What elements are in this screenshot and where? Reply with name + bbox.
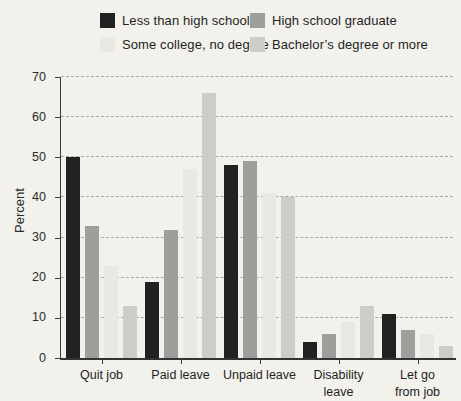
x-tick-label: Quit job <box>80 367 123 384</box>
bar-group-disability-leave: Disability leave <box>303 77 374 358</box>
bar <box>66 157 80 358</box>
bar <box>322 334 336 358</box>
y-tick-label: 10 <box>32 311 46 324</box>
y-tick-label: 50 <box>32 151 46 164</box>
x-tick-mark <box>181 360 182 364</box>
y-tick-label: 40 <box>32 191 46 204</box>
y-tick-mark <box>55 278 60 279</box>
x-tick-label: Disability leave <box>313 367 363 401</box>
bar <box>243 161 257 358</box>
bar <box>401 330 415 358</box>
bar <box>183 169 197 358</box>
bar <box>224 165 238 358</box>
legend-label: High school graduate <box>272 13 397 28</box>
y-tick-mark <box>55 318 60 319</box>
bar <box>420 334 434 358</box>
bar <box>262 193 276 358</box>
plot-area: Quit jobPaid leaveUnpaid leaveDisability… <box>60 77 456 360</box>
x-tick-label: Paid leave <box>151 367 209 384</box>
bar <box>382 314 396 358</box>
bar <box>145 282 159 358</box>
y-tick-mark <box>55 117 60 118</box>
legend-swatch-icon <box>250 37 265 52</box>
bar <box>202 93 216 358</box>
chart-legend: Less than high schoolHigh school graduat… <box>100 13 428 52</box>
bar <box>341 322 355 358</box>
bar <box>123 306 137 358</box>
bar <box>281 197 295 358</box>
bar <box>85 226 99 358</box>
legend-swatch-icon <box>250 13 265 28</box>
x-tick-mark <box>260 360 261 364</box>
x-tick-label: Unpaid leave <box>223 367 296 384</box>
legend-label: Less than high school <box>122 13 250 28</box>
y-axis-tick-labels: 010203040506070 <box>0 77 46 358</box>
x-tick-mark <box>339 360 340 364</box>
bar-group-unpaid-leave: Unpaid leave <box>224 77 295 358</box>
y-tick-label: 60 <box>32 111 46 124</box>
x-tick-label: Let go from job <box>395 367 440 401</box>
bar <box>303 342 317 358</box>
legend-item: Bachelor’s degree or more <box>250 37 428 52</box>
y-tick-label: 20 <box>32 271 46 284</box>
legend-swatch-icon <box>100 37 115 52</box>
y-tick-mark <box>55 77 60 78</box>
bar <box>164 230 178 358</box>
bar <box>360 306 374 358</box>
legend-item: High school graduate <box>250 13 428 28</box>
y-tick-label: 70 <box>32 71 46 84</box>
bar <box>104 266 118 358</box>
bar-group-let-go-from-job: Let go from job <box>382 77 453 358</box>
legend-label: Some college, no degree <box>122 37 269 52</box>
y-tick-label: 0 <box>39 352 46 365</box>
y-tick-mark <box>55 197 60 198</box>
x-tick-mark <box>418 360 419 364</box>
legend-label: Bachelor’s degree or more <box>272 37 428 52</box>
legend-item: Less than high school <box>100 13 250 28</box>
bar-chart: Less than high schoolHigh school graduat… <box>0 0 461 401</box>
bar-group-paid-leave: Paid leave <box>145 77 216 358</box>
bar-groups: Quit jobPaid leaveUnpaid leaveDisability… <box>61 77 456 358</box>
y-tick-mark <box>55 238 60 239</box>
y-tick-label: 30 <box>32 231 46 244</box>
y-tick-mark <box>55 157 60 158</box>
x-tick-mark <box>102 360 103 364</box>
bar-group-quit-job: Quit job <box>66 77 137 358</box>
legend-swatch-icon <box>100 13 115 28</box>
y-tick-mark <box>55 358 60 359</box>
legend-item: Some college, no degree <box>100 37 250 52</box>
bar <box>439 346 453 358</box>
